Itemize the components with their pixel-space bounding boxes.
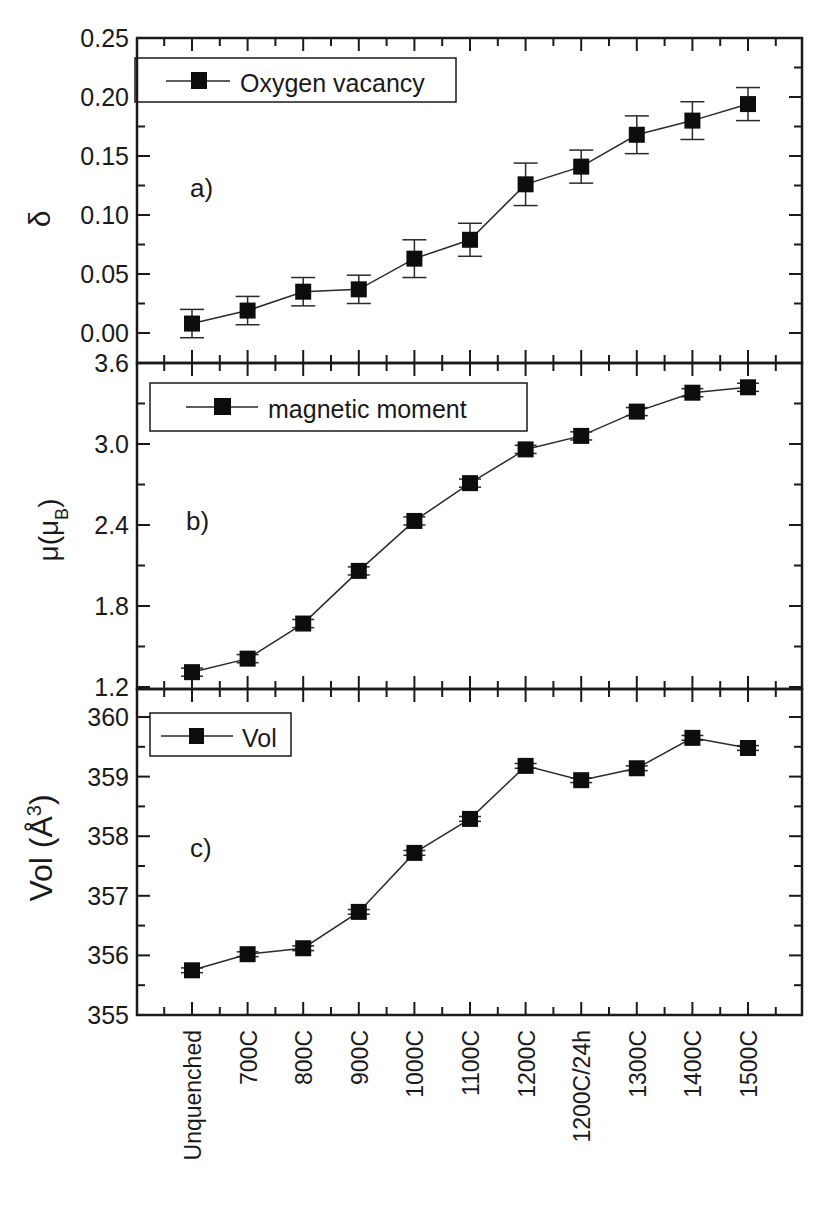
panel-label: c) xyxy=(190,833,212,863)
x-tick-label: 700C xyxy=(236,1030,262,1085)
chart-canvas: 0.000.050.100.150.200.25 Oxygen vacancy … xyxy=(0,0,834,1214)
y-axis-label: δ xyxy=(23,211,56,228)
y-tick-label: 0.20 xyxy=(80,83,129,111)
data-point-square-marker-icon xyxy=(518,758,534,774)
y-tick-label: 355 xyxy=(87,1001,129,1029)
data-point-square-marker-icon xyxy=(740,740,756,756)
x-tick-label: 1400C xyxy=(680,1030,706,1098)
data-point-square-marker-icon xyxy=(184,316,200,332)
legend-square-marker-icon xyxy=(189,728,204,744)
y-tick-label: 2.4 xyxy=(94,511,129,539)
panel-label: a) xyxy=(190,173,213,203)
data-point-square-marker-icon xyxy=(240,303,256,319)
y-axis-label: μ(μB) xyxy=(33,499,72,562)
legend-label: Oxygen vacancy xyxy=(240,69,425,97)
legend-square-marker-icon xyxy=(214,398,231,415)
y-axis-label: Vol (Å3) xyxy=(23,794,59,901)
data-point-square-marker-icon xyxy=(684,385,700,401)
data-point-square-marker-icon xyxy=(462,232,478,248)
panel-a-legend: Oxygen vacancy xyxy=(135,58,456,102)
data-point-square-marker-icon xyxy=(351,904,367,920)
x-tick-label: 800C xyxy=(291,1030,317,1085)
data-point-square-marker-icon xyxy=(684,730,700,746)
y-tick-label: 356 xyxy=(87,941,129,969)
legend-label: Vol xyxy=(242,724,277,752)
y-tick-label: 360 xyxy=(87,703,129,731)
series-line xyxy=(192,104,748,323)
x-axis-tick-labels: Unquenched700C800C900C1000C1100C1200C120… xyxy=(180,1030,762,1160)
data-point-square-marker-icon xyxy=(184,664,200,680)
data-point-square-marker-icon xyxy=(295,616,311,632)
y-tick-label: 3.0 xyxy=(94,430,129,458)
data-point-square-marker-icon xyxy=(629,127,645,143)
y-tick-label: 357 xyxy=(87,882,129,910)
data-point-square-marker-icon xyxy=(684,113,700,129)
y-tick-label: 359 xyxy=(87,763,129,791)
y-tick-label: 1.2 xyxy=(94,673,129,701)
data-point-square-marker-icon xyxy=(351,563,367,579)
x-tick-label: 1100C xyxy=(458,1030,484,1096)
y-tick-label: 0.10 xyxy=(80,201,129,229)
x-tick-label: 1200C xyxy=(514,1030,540,1098)
data-point-square-marker-icon xyxy=(406,251,422,267)
data-point-square-marker-icon xyxy=(518,176,534,192)
x-tick-label: 1200C/24h xyxy=(569,1030,595,1143)
y-tick-label: 3.6 xyxy=(94,349,129,377)
data-point-square-marker-icon xyxy=(740,96,756,112)
data-point-square-marker-icon xyxy=(351,281,367,297)
legend-square-marker-icon xyxy=(191,72,207,89)
panel-c-y-tick-labels: 355356357358359360 xyxy=(87,703,129,1029)
panel-c-volume: 355356357358359360 Vol c) Vol (Å3) xyxy=(23,689,802,1029)
data-point-square-marker-icon xyxy=(406,845,422,861)
panel-c-legend: Vol xyxy=(150,713,291,756)
x-tick-label: 900C xyxy=(347,1030,373,1085)
data-point-square-marker-icon xyxy=(629,404,645,420)
y-tick-label: 0.15 xyxy=(80,142,129,170)
panel-b-y-tick-labels: 1.21.82.43.03.6 xyxy=(94,349,129,701)
data-point-square-marker-icon xyxy=(184,962,200,978)
data-point-square-marker-icon xyxy=(295,284,311,300)
y-tick-label: 358 xyxy=(87,822,129,850)
panel-a-y-tick-labels: 0.000.050.100.150.200.25 xyxy=(80,24,129,347)
data-point-square-marker-icon xyxy=(240,651,256,667)
x-tick-label: 1000C xyxy=(402,1030,428,1098)
axes-frames xyxy=(137,38,802,1015)
legend-label: magnetic moment xyxy=(268,395,467,423)
y-tick-label: 0.25 xyxy=(80,24,129,52)
stacked-chart-figure: 0.000.050.100.150.200.25 Oxygen vacancy … xyxy=(0,0,834,1214)
data-point-square-marker-icon xyxy=(573,159,589,175)
panel-label: b) xyxy=(186,506,209,536)
data-point-square-marker-icon xyxy=(629,760,645,776)
data-point-square-marker-icon xyxy=(462,475,478,491)
data-point-square-marker-icon xyxy=(740,379,756,395)
data-point-square-marker-icon xyxy=(518,441,534,457)
panel-b-magnetic-moment: 1.21.82.43.03.6 magnetic moment b) μ(μB) xyxy=(33,349,802,701)
data-point-square-marker-icon xyxy=(240,946,256,962)
data-point-square-marker-icon xyxy=(462,811,478,827)
series-line xyxy=(192,738,748,970)
y-tick-label: 1.8 xyxy=(94,592,129,620)
x-tick-label: 1300C xyxy=(625,1030,651,1098)
panel-c-series xyxy=(181,730,759,978)
y-tick-label: 0.00 xyxy=(80,319,129,347)
data-point-square-marker-icon xyxy=(295,940,311,956)
data-point-square-marker-icon xyxy=(406,513,422,529)
x-tick-label: Unquenched xyxy=(180,1030,206,1160)
panel-a-oxygen-vacancy: 0.000.050.100.150.200.25 Oxygen vacancy … xyxy=(23,24,802,363)
panel-a-series xyxy=(180,88,760,338)
data-point-square-marker-icon xyxy=(573,428,589,444)
data-point-square-marker-icon xyxy=(573,772,589,788)
panel-b-legend: magnetic moment xyxy=(150,383,527,431)
x-tick-label: 1500C xyxy=(736,1030,762,1098)
y-tick-label: 0.05 xyxy=(80,260,129,288)
